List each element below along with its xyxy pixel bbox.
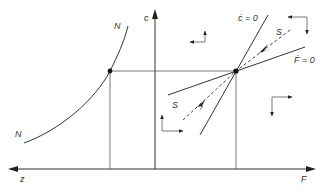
equilibrium-point <box>233 68 238 73</box>
guide-lines <box>110 71 236 169</box>
saddle-path <box>183 30 290 120</box>
n-curve-point <box>108 69 113 74</box>
n-curve-top-label: N <box>114 21 121 31</box>
arrow-pair-upper-right <box>288 17 307 34</box>
arrow-pair-upper-left <box>190 31 205 42</box>
saddle-arrow-upper-icon <box>259 44 271 53</box>
saddle-arrow-lower-icon <box>197 100 205 112</box>
phase-diagram: c z F N N ċ = 0 Ḟ = 0 S S <box>0 0 327 193</box>
f-dot-zero-label: Ḟ = 0 <box>294 55 315 65</box>
c-dot-zero-label: ċ = 0 <box>238 13 258 23</box>
c-axis-label: c <box>144 13 149 23</box>
z-axis-arrowhead-icon <box>8 166 18 172</box>
z-axis-label: z <box>19 174 25 184</box>
n-curve <box>24 26 128 143</box>
c-dot-zero-line <box>200 15 268 135</box>
arrow-pair-lower-left <box>162 115 183 131</box>
f-axis-label: F <box>301 174 307 184</box>
c-axis-arrowhead-icon <box>152 9 158 19</box>
horizontal-axis <box>8 166 316 172</box>
arrow-pair-lower-right <box>272 97 292 116</box>
f-axis-arrowhead-icon <box>306 166 316 172</box>
n-curve-bottom-label: N <box>15 129 22 139</box>
c-axis <box>152 9 158 169</box>
saddle-upper-label: S <box>276 27 282 37</box>
saddle-lower-label: S <box>172 100 178 110</box>
